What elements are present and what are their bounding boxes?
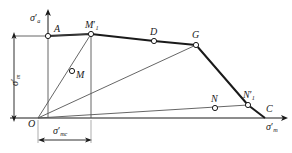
point-label-M1: M′1 bbox=[85, 20, 99, 31]
ray-o-to-g bbox=[38, 45, 196, 118]
point-label-A: A bbox=[54, 24, 60, 34]
point-marker-A bbox=[45, 33, 50, 38]
point-label-D: D bbox=[150, 27, 157, 37]
point-marker-M bbox=[69, 68, 74, 73]
horizontal-dimension-label: σ′mc bbox=[53, 126, 67, 137]
point-label-C: C bbox=[266, 104, 273, 114]
point-marker-N bbox=[212, 105, 217, 110]
vertical-dimension-label: σ′m bbox=[10, 74, 21, 86]
point-label-N1: N′1 bbox=[243, 90, 255, 101]
upper-envelope-polyline bbox=[48, 34, 196, 45]
failure-line-g-c bbox=[196, 45, 265, 118]
point-marker-D bbox=[151, 38, 156, 43]
point-marker-M1 bbox=[88, 31, 93, 36]
figure-canvas: σ′a σ′m A M′1 M D G N N′1 C O σ′m σ′mc bbox=[0, 0, 292, 153]
point-marker-N1 bbox=[245, 102, 250, 107]
point-label-M: M bbox=[76, 70, 84, 80]
point-label-N: N bbox=[211, 94, 218, 104]
x-axis-label: σ′m bbox=[266, 122, 278, 133]
point-label-G: G bbox=[192, 30, 199, 40]
y-axis-label: σ′a bbox=[30, 13, 40, 24]
diagram-svg bbox=[0, 0, 292, 153]
point-marker-G bbox=[193, 42, 198, 47]
origin-label: O bbox=[28, 119, 35, 129]
